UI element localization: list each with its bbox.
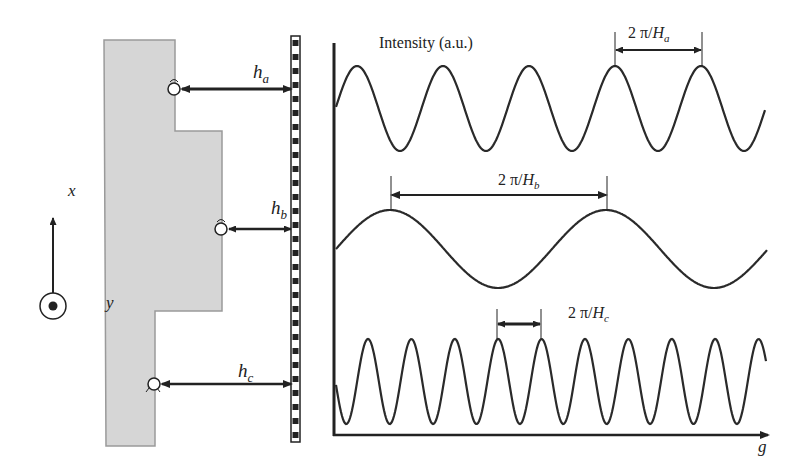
intensity-curve-b [336, 210, 767, 288]
hc-label: hc [238, 360, 254, 385]
sensor-a-icon [168, 83, 180, 95]
coordinate-axes: x y [40, 181, 114, 319]
distance-hc: hc [146, 360, 291, 392]
period-label-b: 2 π/Hb [498, 171, 540, 191]
g-axis-label: g [758, 437, 767, 456]
period-annotation-c: 2 π/Hc [497, 304, 609, 339]
y-axis-label: y [104, 293, 114, 312]
intensity-curve-c [336, 339, 766, 424]
ha-label: ha [253, 61, 270, 86]
intensity-label: Intensity (a.u.) [379, 34, 473, 52]
period-annotation-b: 2 π/Hb [391, 171, 607, 211]
period-label-a: 2 π/Ha [628, 24, 670, 44]
sensor-b-icon [215, 223, 227, 235]
distance-ha: ha [168, 61, 291, 95]
distance-hb: hb [215, 197, 291, 235]
period-label-c: 2 π/Hc [568, 304, 609, 324]
hb-label: hb [271, 197, 288, 222]
reference-scale [291, 36, 300, 442]
intensity-curve-a [336, 66, 765, 151]
x-axis-label: x [67, 181, 76, 200]
period-annotation-a: 2 π/Ha [615, 24, 702, 66]
figure-canvas: x y ha hb hc Intensity (a.u.) g 2 π/Ha [0, 0, 807, 476]
sensor-c-icon [148, 378, 160, 390]
